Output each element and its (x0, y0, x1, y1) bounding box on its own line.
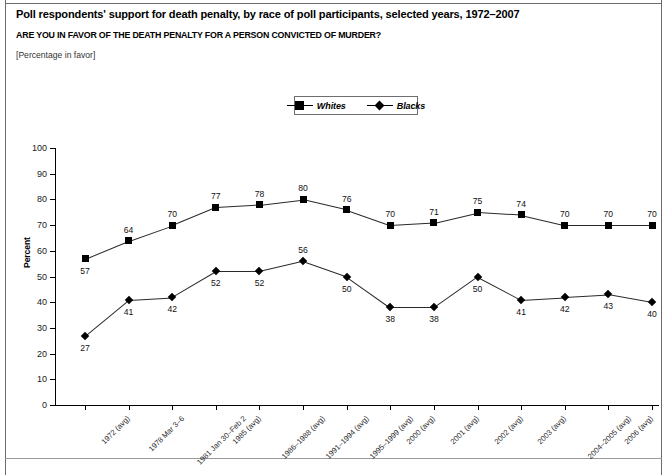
y-tick-label: 30 (37, 323, 47, 333)
x-tick-label: 1978 Mar 3–6 (146, 414, 186, 454)
series-segment (85, 300, 129, 337)
x-tick-label: 2002 (avg) (492, 414, 524, 446)
data-point-label: 38 (429, 314, 439, 324)
data-point (604, 290, 612, 298)
data-point (386, 303, 394, 311)
x-tick (259, 405, 260, 410)
y-tick-label: 50 (37, 272, 47, 282)
legend-item-whites: Whites (287, 101, 346, 111)
series-segment (608, 294, 652, 303)
x-tick (347, 405, 348, 410)
diamond-marker-icon (367, 101, 393, 110)
y-tick (50, 405, 55, 406)
poll-question: ARE YOU IN FAVOR OF THE DEATH PENALTY FO… (16, 29, 381, 40)
data-point-label: 52 (255, 278, 265, 288)
page-border-right (661, 0, 662, 475)
y-tick-label: 0 (42, 400, 47, 410)
x-tick (172, 405, 173, 410)
data-point-label: 50 (342, 284, 352, 294)
data-point-label: 42 (167, 304, 177, 314)
x-tick-label: 2001 (avg) (449, 414, 481, 446)
data-point-label: 56 (298, 245, 308, 255)
page-border-top (5, 3, 662, 4)
y-axis-title: Percent (22, 237, 32, 268)
y-tick-label: 90 (37, 169, 47, 179)
plot-area: 0102030405060708090100 1972 (avg)1978 Ma… (55, 148, 659, 405)
x-tick (434, 405, 435, 410)
x-tick (478, 405, 479, 410)
data-point (299, 257, 307, 265)
legend-item-blacks: Blacks (367, 101, 425, 111)
x-tick (85, 405, 86, 410)
series-segment (303, 261, 347, 277)
series-segment (565, 294, 609, 298)
x-tick (216, 405, 217, 410)
data-point-label: 40 (647, 309, 657, 319)
x-tick (652, 405, 653, 410)
x-tick-label: 1972 (avg) (100, 414, 132, 446)
series-segment (521, 297, 565, 301)
y-tick-label: 10 (37, 374, 47, 384)
data-point-label: 27 (80, 343, 90, 353)
data-point-label: 50 (473, 284, 483, 294)
x-tick (303, 405, 304, 410)
data-point-label: 42 (560, 304, 570, 314)
data-point-label: 52 (211, 278, 221, 288)
y-tick-label: 100 (32, 143, 47, 153)
square-marker-icon (287, 101, 313, 110)
series-segment (477, 277, 521, 301)
data-point (255, 267, 263, 275)
data-point (561, 293, 569, 301)
page-border-left (5, 0, 6, 475)
series-segment (346, 277, 390, 309)
series-segment (172, 271, 216, 298)
y-tick-label: 80 (37, 194, 47, 204)
data-point (212, 267, 220, 275)
data-point-label: 38 (386, 314, 396, 324)
series-segment (129, 297, 173, 301)
series-blacks: 2741425252565038385041424340 (55, 148, 659, 405)
data-point (517, 295, 525, 303)
y-tick-label: 20 (37, 349, 47, 359)
x-tick (565, 405, 566, 410)
series-segment (216, 271, 260, 272)
data-point-label: 43 (604, 301, 614, 311)
y-tick-label: 70 (37, 220, 47, 230)
x-tick (390, 405, 391, 410)
series-segment (434, 276, 478, 308)
series-segment (259, 261, 303, 272)
x-tick (129, 405, 130, 410)
chart-page: Poll respondents' support for death pena… (0, 0, 663, 475)
x-tick (521, 405, 522, 410)
x-tick-label: 1991–1994 (avg) (324, 414, 371, 461)
y-tick-label: 60 (37, 246, 47, 256)
legend-label-whites: Whites (317, 101, 346, 111)
series-segment (390, 307, 434, 308)
x-tick (608, 405, 609, 410)
data-point-label: 41 (516, 307, 526, 317)
units-note: [Percentage in favor] (16, 50, 95, 60)
y-tick-label: 40 (37, 297, 47, 307)
legend-label-blacks: Blacks (397, 101, 425, 111)
x-tick-label: 1986–1988 (avg) (280, 414, 327, 461)
chart-legend: Whites Blacks (294, 96, 418, 115)
page-title: Poll respondents' support for death pena… (16, 8, 519, 20)
page-border-bottom (5, 458, 662, 459)
data-point (648, 298, 656, 306)
data-point-label: 41 (124, 307, 134, 317)
x-axis-line (55, 405, 659, 406)
x-tick-label: 2003 (avg) (536, 414, 568, 446)
